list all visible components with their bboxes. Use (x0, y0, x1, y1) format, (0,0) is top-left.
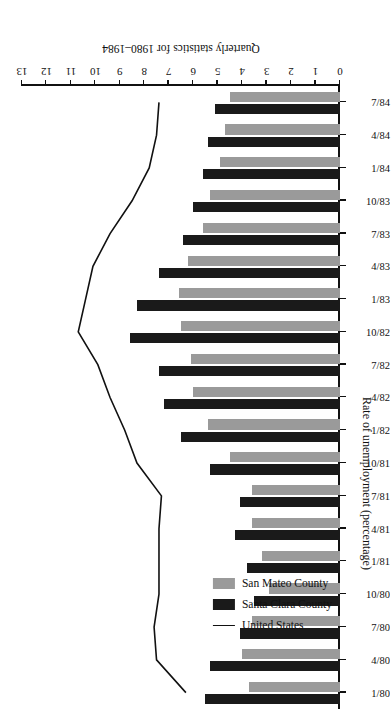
legend-swatch-gray (213, 578, 235, 589)
category-tick (340, 429, 346, 430)
bar (193, 387, 340, 397)
value-tick-label: 1 (303, 66, 329, 78)
legend-swatch-line (213, 625, 235, 626)
bar (210, 190, 340, 200)
legend-item: United States (213, 619, 332, 631)
category-tick (340, 659, 346, 660)
category-tick (340, 691, 346, 692)
legend-swatch-dark (213, 599, 235, 610)
value-tick-label: 9 (107, 66, 133, 78)
value-tick-label: 5 (205, 66, 231, 78)
category-label: 1/80 (348, 688, 390, 699)
bar (137, 300, 340, 310)
value-tick-label: 10 (82, 66, 108, 78)
category-label: 10/83 (348, 196, 390, 207)
bar (191, 354, 340, 364)
bar (179, 288, 340, 298)
bar (203, 223, 340, 233)
value-tick-label: 7 (156, 66, 182, 78)
category-tick (340, 363, 346, 364)
category-label: 7/83 (348, 229, 390, 240)
category-tick (340, 495, 346, 496)
bar (215, 104, 340, 114)
bar (252, 518, 340, 528)
category-tick (340, 560, 346, 561)
category-tick (340, 199, 346, 200)
value-tick-label: 6 (180, 66, 206, 78)
bar (130, 333, 340, 343)
category-label: 4/84 (348, 130, 390, 141)
category-tick (340, 298, 346, 299)
bar (230, 452, 340, 462)
bar (262, 551, 340, 561)
category-tick (340, 331, 346, 332)
category-label: 4/83 (348, 261, 390, 272)
bar (188, 256, 340, 266)
bar (193, 202, 340, 212)
category-label: 1/83 (348, 294, 390, 305)
legend-item: Santa Clara County (213, 598, 332, 610)
bar (252, 485, 340, 495)
category-tick (340, 232, 346, 233)
value-tick-label: 2 (278, 66, 304, 78)
legend-label: United States (242, 619, 304, 631)
category-label: 10/80 (348, 589, 390, 600)
rotated-figure-container: 012345678910111213 1/804/807/8010/801/81… (0, 0, 392, 727)
bar (220, 157, 340, 167)
category-tick (340, 101, 346, 102)
bar (159, 268, 340, 278)
chart-caption: Quarterly statistics for 1980–1984 (22, 43, 340, 55)
value-tick-label: 3 (254, 66, 280, 78)
category-label: 4/80 (348, 655, 390, 666)
bar (183, 235, 340, 245)
legend-item: San Mateo County (213, 577, 332, 589)
category-label: 7/80 (348, 622, 390, 633)
category-tick (340, 462, 346, 463)
bar (242, 649, 340, 659)
category-label: 10/82 (348, 327, 390, 338)
category-tick (340, 396, 346, 397)
category-label: 7/84 (348, 97, 390, 108)
bar (208, 419, 340, 429)
category-label: 7/82 (348, 360, 390, 371)
value-tick-label: 11 (58, 66, 84, 78)
category-tick (340, 527, 346, 528)
legend-label: San Mateo County (242, 577, 328, 589)
chart-legend: United StatesSanta Clara CountySan Mateo… (213, 568, 332, 631)
value-tick-label: 12 (33, 66, 59, 78)
bar (225, 124, 340, 134)
value-tick-label: 8 (131, 66, 157, 78)
bar (235, 530, 340, 540)
category-tick (340, 167, 346, 168)
bar (181, 432, 340, 442)
bar (230, 92, 340, 102)
category-tick (340, 265, 346, 266)
bar (210, 464, 340, 474)
category-tick (340, 134, 346, 135)
category-label: 1/84 (348, 163, 390, 174)
bar (210, 661, 340, 671)
bar (205, 694, 340, 704)
value-tick-label: 4 (229, 66, 255, 78)
bar (240, 497, 340, 507)
unemployment-chart: 012345678910111213 1/804/807/8010/801/81… (0, 0, 392, 727)
bar (159, 366, 340, 376)
bar (164, 399, 340, 409)
value-tick-label: 0 (327, 66, 353, 78)
bar (203, 169, 340, 179)
legend-label: Santa Clara County (242, 598, 332, 610)
category-tick (340, 626, 346, 627)
value-tick-label: 13 (9, 66, 35, 78)
bar (250, 682, 341, 692)
value-axis-title: Rate of unemployment (percentage) (359, 397, 374, 570)
category-tick (340, 593, 346, 594)
bar (208, 137, 340, 147)
bar (181, 321, 340, 331)
